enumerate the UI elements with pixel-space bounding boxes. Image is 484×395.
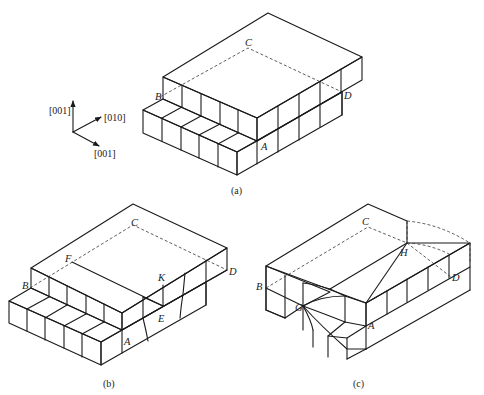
point-label-h: H: [399, 247, 409, 258]
point-label-d: D: [451, 272, 460, 283]
point-label-c: C: [131, 217, 139, 228]
axis-label-down: [001]: [94, 148, 116, 159]
point-label-g: G: [295, 302, 303, 313]
point-label-k: K: [157, 272, 166, 283]
point-label-a: A: [367, 320, 375, 331]
point-label-c: C: [362, 216, 370, 227]
axis-label-right: [010]: [104, 112, 126, 123]
panel-a: B C D A (a): [143, 13, 362, 197]
point-label-a: A: [260, 141, 268, 152]
crystal-axes: [001] [010] [001]: [49, 101, 126, 159]
point-label-d: D: [228, 266, 237, 277]
point-label-e: E: [157, 313, 165, 324]
point-label-b: B: [22, 280, 29, 291]
point-label-d: D: [343, 90, 352, 101]
point-label-a: A: [123, 336, 131, 347]
panel-c: B C D A G H (c): [256, 204, 470, 390]
axis-010-arrow: [73, 117, 101, 132]
point-label-b: B: [256, 281, 263, 292]
caption-b: (b): [103, 378, 115, 390]
caption-c: (c): [353, 378, 364, 390]
axis-label-up: [001]: [49, 105, 71, 116]
caption-a: (a): [231, 185, 242, 197]
axis-001-down-arrow: [73, 132, 99, 146]
point-label-b: B: [155, 91, 162, 102]
point-label-c: C: [245, 37, 253, 48]
slip-plane-boundary: [160, 48, 342, 97]
point-label-f: F: [64, 253, 72, 264]
panel-b: B C D A F K E (b): [9, 204, 237, 390]
dislocation-diagram: [001] [010] [001]: [0, 0, 484, 395]
